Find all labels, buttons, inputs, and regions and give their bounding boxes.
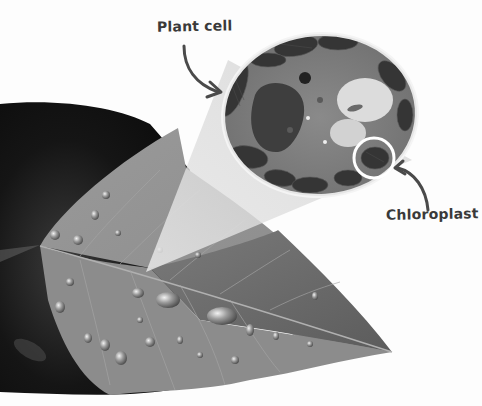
plant-cell-label: Plant cell	[157, 17, 233, 34]
plant-cell-arrow-icon	[184, 46, 221, 97]
chloroplast-arrow-icon	[395, 161, 428, 210]
diagram-stage: Plant cell Chloroplast	[0, 0, 482, 406]
illustration	[0, 0, 482, 406]
chloroplast-label: Chloroplast	[386, 205, 479, 223]
